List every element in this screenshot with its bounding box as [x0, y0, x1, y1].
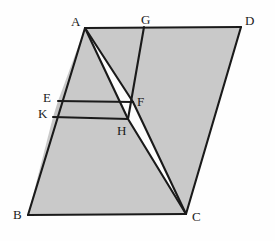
region-upper-aegf — [58, 27, 144, 102]
vertex-label-B: B — [13, 208, 22, 221]
segment-EF — [58, 101, 133, 102]
segment-AD — [85, 27, 241, 28]
vertex-label-H: H — [117, 124, 126, 137]
vertex-label-K: K — [38, 107, 47, 120]
geometry-figure: A G D E F K H B C — [0, 0, 275, 241]
vertex-label-C: C — [192, 210, 201, 223]
vertex-label-E: E — [43, 91, 51, 104]
shaded-regions — [28, 27, 241, 215]
vertex-label-D: D — [245, 14, 254, 27]
vertex-label-F: F — [137, 95, 144, 108]
segment-BC — [28, 214, 186, 215]
vertex-label-A: A — [71, 15, 80, 28]
vertex-label-G: G — [141, 13, 150, 26]
